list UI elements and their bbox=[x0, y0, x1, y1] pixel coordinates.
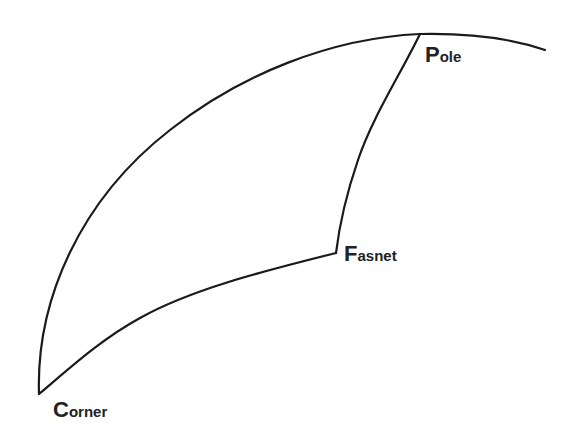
fasnet-label-initial: F bbox=[344, 241, 357, 266]
pole-label: Pole bbox=[425, 44, 461, 66]
outer-arc-edge bbox=[39, 34, 545, 394]
pole-label-initial: P bbox=[425, 42, 440, 67]
pole-fasnet-edge bbox=[336, 34, 420, 253]
spherical-triangle-diagram bbox=[0, 0, 577, 441]
corner-label: Corner bbox=[53, 399, 107, 421]
corner-label-initial: C bbox=[53, 397, 69, 422]
fasnet-corner-edge bbox=[39, 253, 336, 394]
fasnet-label: Fasnet bbox=[344, 243, 397, 265]
pole-label-rest: ole bbox=[440, 48, 462, 65]
fasnet-label-rest: asnet bbox=[357, 247, 396, 264]
corner-label-rest: orner bbox=[69, 403, 107, 420]
